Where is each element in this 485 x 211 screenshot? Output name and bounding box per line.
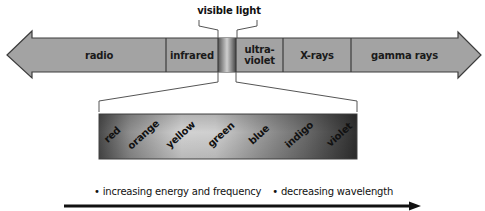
- direction-arrow: [64, 202, 421, 211]
- visible-light-strip: [218, 38, 236, 72]
- caption-wavelength: • decreasing wavelength: [272, 186, 393, 197]
- band-label-infrared: infrared: [166, 38, 218, 72]
- band-label-ultraviolet: ultra- violet: [236, 38, 283, 72]
- visible-light-bracket: [199, 20, 257, 38]
- band-label-radio: radio: [32, 38, 166, 72]
- caption-energy: • increasing energy and frequency: [94, 186, 261, 197]
- band-label-gamma-rays: gamma rays: [351, 38, 458, 72]
- ultraviolet-line2: violet: [244, 55, 275, 66]
- spectrum-arrow: [0, 0, 485, 211]
- expansion-lines: [99, 72, 357, 112]
- band-label-xrays: X-rays: [283, 38, 351, 72]
- ultraviolet-line1: ultra-: [245, 44, 275, 55]
- direction-caption: • increasing energy and frequency • decr…: [94, 186, 401, 197]
- visible-light-label: visible light: [196, 5, 262, 16]
